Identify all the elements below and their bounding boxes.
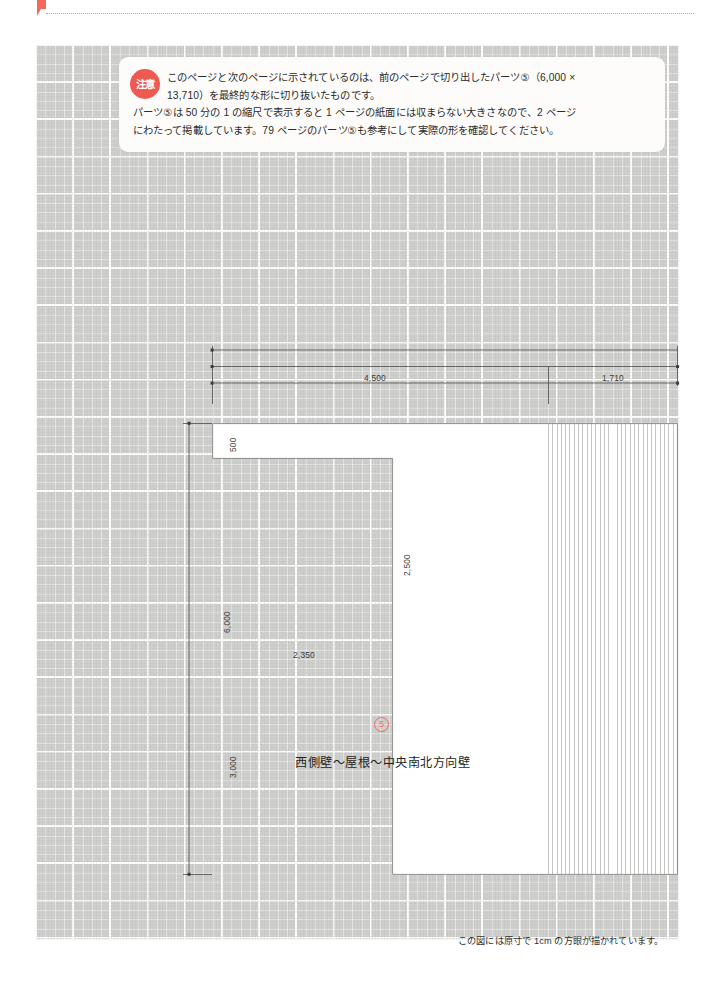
scale-footnote: この図には原寸で 1cm の方眼が描かれています。 <box>458 933 663 947</box>
header-triangle-tip-icon <box>37 0 46 16</box>
notice-badge: 注意 <box>130 69 160 99</box>
notice-line-3: パーツ⑤は 50 分の 1 の縮尺で表示すると 1 ページの紙面には収まらない大… <box>133 104 649 122</box>
dimension-label-500: 500 <box>228 437 238 452</box>
dimension-label-4500: 4,500 <box>364 373 386 383</box>
dimension-label-2350: 2,350 <box>293 650 315 660</box>
notice-line-4: にわたって掲載しています。79 ページのパーツ⑤も参考にして実際の形を確認してく… <box>133 122 649 140</box>
notice-line-1: このページと次のページに示されているのは、前のページで切り出したパーツ⑤（6,0… <box>167 69 649 87</box>
dimension-label-6000: 6,000 <box>222 611 232 633</box>
dimension-label-3000: 3,000 <box>228 756 238 778</box>
graph-paper-sheet: 4,500 1,710 6,000 500 2,500 2,350 3,000 … <box>36 45 679 940</box>
header-dotted-rule <box>46 13 694 14</box>
part-caption-label: 西側壁〜屋根〜中央南北方向壁 <box>295 753 470 771</box>
notice-callout: 注意 このページと次のページに示されているのは、前のページで切り出したパーツ⑤（… <box>119 57 665 152</box>
notice-line-2: 13,710）を最終的な形に切り抜いたものです。 <box>167 87 649 105</box>
part-number-badge: 5 <box>374 717 389 732</box>
dimension-label-2500: 2,500 <box>402 554 412 576</box>
dimension-label-1710: 1,710 <box>602 373 624 383</box>
page-header-marker <box>0 0 715 26</box>
notice-text: このページと次のページに示されているのは、前のページで切り出したパーツ⑤（6,0… <box>167 69 649 140</box>
part-shape-outline <box>212 423 678 875</box>
corrugated-hatch-region <box>548 423 678 875</box>
